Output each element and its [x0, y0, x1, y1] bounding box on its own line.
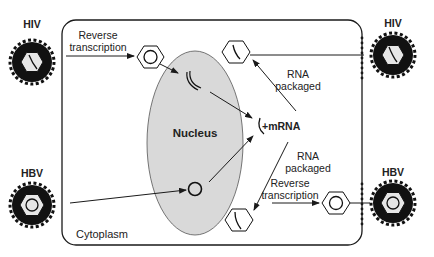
label-reverse-top-line1: Reverse [66, 29, 130, 41]
label-rna-bottom-line1: RNA [283, 150, 333, 162]
label-hbv-incoming: HBV [18, 167, 46, 179]
nucleus [147, 51, 243, 235]
label-nucleus: Nucleus [160, 127, 230, 139]
capsid-hbv-rna [225, 209, 253, 231]
label-rna-top-line1: RNA [273, 68, 323, 80]
hiv-virion-incoming [10, 40, 54, 84]
capsid-hiv-dna [137, 46, 164, 68]
label-hiv-outgoing: HIV [381, 17, 405, 29]
membrane-bud-bottom [361, 183, 364, 226]
label-reverse-transcription-bottom: Reverse transcription [258, 177, 322, 201]
label-mrna: +mRNA [262, 120, 308, 132]
hiv-virion-outgoing [371, 33, 415, 77]
hbv-virion-incoming [10, 183, 54, 227]
label-rna-packaged-bottom: RNA packaged [283, 150, 333, 174]
label-rna-top-line2: packaged [273, 80, 323, 92]
capsid-hiv-rna [222, 41, 250, 63]
label-reverse-bottom-line2: transcription [258, 189, 322, 201]
label-reverse-transcription-top: Reverse transcription [66, 29, 130, 53]
membrane-bud-top [361, 37, 364, 80]
label-cytoplasm: Cytoplasm [76, 228, 146, 240]
label-reverse-top-line2: transcription [66, 41, 130, 53]
label-reverse-bottom-line1: Reverse [258, 177, 322, 189]
hbv-virion-outgoing [371, 181, 415, 225]
label-rna-packaged-top: RNA packaged [273, 68, 323, 92]
label-rna-bottom-line2: packaged [283, 162, 333, 174]
capsid-hbv-dna [322, 192, 350, 214]
label-hbv-outgoing: HBV [379, 166, 407, 178]
label-hiv-incoming: HIV [20, 18, 44, 30]
